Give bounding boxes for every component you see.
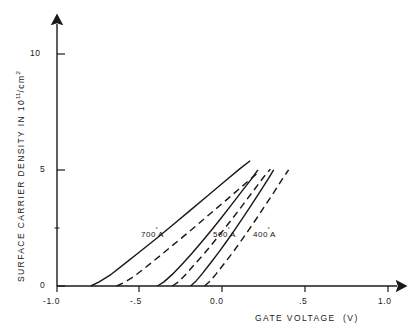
x-tick-label-neg1p0: -1.0 <box>43 296 60 306</box>
axis-lines <box>57 24 397 286</box>
x-tick-label-neg0p5: -.5 <box>130 296 142 306</box>
curve-700A-experiment <box>117 172 259 286</box>
x-axis-title-text: GATE VOLTAGE <box>255 313 336 323</box>
y-axis-title-exponent: 11 <box>14 92 21 98</box>
data-curves <box>91 161 289 286</box>
curve-label-500A-number: 500 <box>213 230 228 239</box>
x-axis-ticks <box>57 286 388 292</box>
y-tick-label-0: 0 <box>40 280 45 290</box>
x-tick-label-0p0: 0.0 <box>210 296 224 306</box>
x-axis-title: GATE VOLTAGE (V) <box>255 313 359 323</box>
curve-label-700A-unit: A <box>158 230 164 239</box>
curve-700A-theory <box>91 161 250 286</box>
figure-surface-carrier-density-vs-gate-voltage: 10 5 0 -1.0 -.5 0.0 .5 1.0 GATE VOLTAGE … <box>0 0 418 335</box>
curve-label-400A-unit: A <box>270 230 276 239</box>
y-axis-title-suffix: /cm <box>16 75 26 93</box>
x-axis-title-units: (V) <box>343 313 359 323</box>
x-tick-label-1p0: 1.0 <box>378 296 392 306</box>
curve-label-400A-number: 400 <box>253 230 268 239</box>
y-axis-ticks <box>55 54 66 286</box>
plot-canvas <box>0 0 418 335</box>
curve-label-500A: 500˚A <box>213 227 236 239</box>
curve-500A-theory <box>157 170 258 286</box>
curve-label-500A-unit: A <box>230 230 236 239</box>
curve-label-400A: 400˚A <box>253 227 276 239</box>
y-axis-title-text: SURFACE CARRIER DENSITY IN 10 <box>16 99 26 282</box>
x-tick-label-0p5: .5 <box>299 296 307 306</box>
y-tick-label-10: 10 <box>30 48 41 58</box>
curve-label-700A-number: 700 <box>141 230 156 239</box>
y-axis-title-suffix-exponent: 2 <box>14 71 21 74</box>
y-tick-label-5: 5 <box>40 164 45 174</box>
curve-label-700A: 700˚A <box>141 227 164 239</box>
y-axis-title: SURFACE CARRIER DENSITY IN 1011/cm2 <box>14 71 26 282</box>
